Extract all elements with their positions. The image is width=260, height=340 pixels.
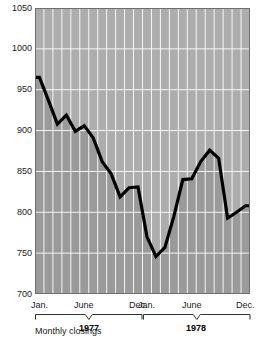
chart-footnote: Monthly closings xyxy=(35,326,102,336)
y-tick-label: 1000 xyxy=(2,44,32,53)
stock-index-line-chart: 70075080085090095010001050 Jan.JuneDec.1… xyxy=(0,0,260,340)
y-tick-label: 750 xyxy=(2,249,32,258)
y-axis: 70075080085090095010001050 xyxy=(0,0,32,340)
y-tick-label: 900 xyxy=(2,126,32,135)
y-tick-label: 850 xyxy=(2,167,32,176)
y-tick-label: 800 xyxy=(2,208,32,217)
year-label: 1978 xyxy=(186,323,206,333)
x-tick-label: Dec. xyxy=(236,300,255,310)
x-tick-label: June xyxy=(182,300,202,310)
y-tick-label: 950 xyxy=(2,85,32,94)
plot-svg xyxy=(35,8,250,294)
x-tick-label: Jan. xyxy=(138,300,155,310)
x-tick-label: Jan. xyxy=(31,300,48,310)
plot-area xyxy=(35,8,250,294)
x-tick-label: June xyxy=(74,300,94,310)
y-tick-label: 1050 xyxy=(2,4,32,13)
